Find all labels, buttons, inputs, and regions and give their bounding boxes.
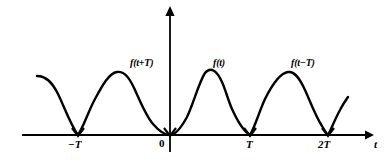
y-axis-arrowhead <box>165 6 174 16</box>
x-axis-label: t <box>374 139 377 150</box>
periodic-function-figure: f(t+T) f(t) f(t−T) −T 0 T 2T t <box>0 0 390 162</box>
x-tick-label-minus-T: −T <box>68 139 81 150</box>
waveform-curve <box>37 70 348 135</box>
x-tick-label-T: T <box>246 139 253 150</box>
curve-label-f-t-plus-T: f(t+T) <box>130 58 153 68</box>
x-tick-label-2T: 2T <box>318 139 330 150</box>
plot-canvas <box>0 0 390 162</box>
x-tick-label-zero: 0 <box>159 138 165 149</box>
curve-label-f-t: f(t) <box>213 58 225 68</box>
curve-label-f-t-minus-T: f(t−T) <box>291 58 315 68</box>
x-axis-arrowhead <box>365 131 374 140</box>
